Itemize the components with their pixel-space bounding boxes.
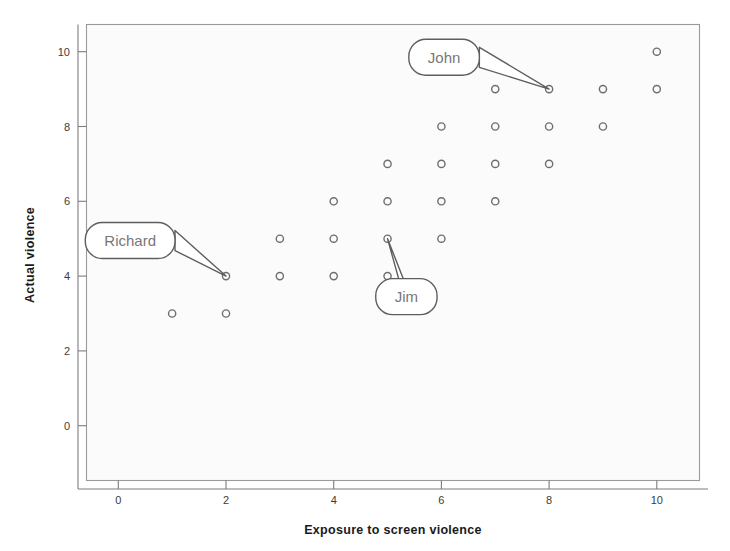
x-axis-ticks: 0246810 bbox=[115, 481, 663, 507]
y-axis-title: Actual violence bbox=[23, 207, 37, 303]
callout-label: John bbox=[428, 49, 461, 66]
y-tick-label: 4 bbox=[64, 270, 70, 282]
y-axis-ticks: 0246810 bbox=[58, 46, 87, 432]
x-tick-label: 6 bbox=[438, 494, 444, 506]
x-tick-label: 4 bbox=[331, 494, 337, 506]
x-tick-label: 8 bbox=[546, 494, 552, 506]
x-tick-label: 10 bbox=[651, 494, 663, 506]
scatter-chart: 0246810 0246810 JohnRichardJim Actual vi… bbox=[0, 0, 730, 551]
y-tick-label: 6 bbox=[64, 195, 70, 207]
y-tick-label: 10 bbox=[58, 46, 70, 58]
callout-label: Jim bbox=[395, 288, 418, 305]
x-tick-label: 2 bbox=[223, 494, 229, 506]
x-tick-label: 0 bbox=[115, 494, 121, 506]
y-tick-label: 2 bbox=[64, 345, 70, 357]
y-tick-label: 8 bbox=[64, 121, 70, 133]
plot-canvas: 0246810 0246810 JohnRichardJim Actual vi… bbox=[0, 0, 730, 551]
callout-label: Richard bbox=[104, 232, 156, 249]
y-tick-label: 0 bbox=[64, 420, 70, 432]
x-axis-title: Exposure to screen violence bbox=[304, 523, 482, 537]
